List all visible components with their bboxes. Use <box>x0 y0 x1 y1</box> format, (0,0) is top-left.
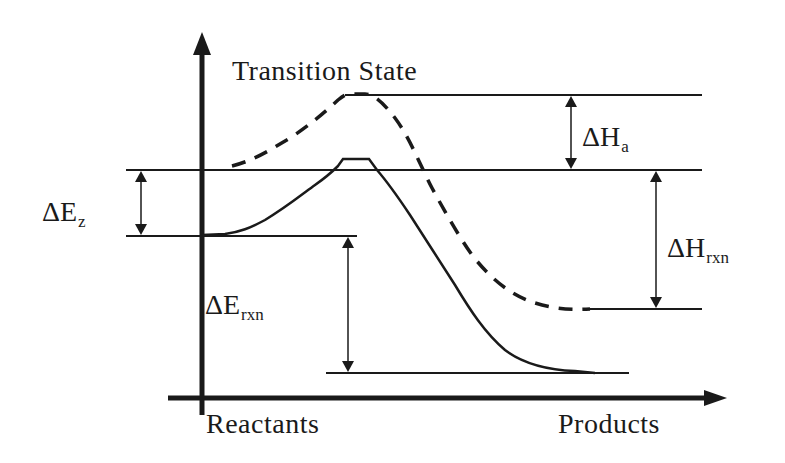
x-axis <box>168 390 727 406</box>
delta-e-z-label: ΔEz <box>42 198 86 230</box>
delta-e-z-arrow <box>135 171 147 235</box>
products-label: Products <box>558 410 660 438</box>
delta-h-a-sub: a <box>621 137 629 156</box>
energy-curve <box>202 159 595 373</box>
enthalpy-curve <box>232 94 590 309</box>
delta-e-z-sub: z <box>78 212 86 231</box>
y-axis <box>193 32 211 415</box>
x-axis-arrow-icon <box>704 390 727 406</box>
delta-h-rxn-label: ΔHrxn <box>667 234 729 266</box>
delta-e-rxn-arrow <box>342 237 354 372</box>
delta-h-a-base: ΔH <box>582 121 620 152</box>
y-axis-arrow-icon <box>193 32 211 55</box>
delta-e-rxn-sub: rxn <box>241 305 264 324</box>
delta-e-rxn-base: ΔE <box>205 289 240 320</box>
delta-h-rxn-arrow <box>650 171 662 308</box>
delta-e-rxn-label: ΔErxn <box>205 291 264 323</box>
transition-state-label: Transition State <box>232 57 417 85</box>
delta-h-rxn-base: ΔH <box>667 232 705 263</box>
delta-h-rxn-sub: rxn <box>706 248 729 267</box>
delta-e-z-base: ΔE <box>42 196 77 227</box>
reactants-label: Reactants <box>206 410 319 438</box>
delta-h-a-arrow <box>565 96 577 169</box>
delta-h-a-label: ΔHa <box>582 123 629 155</box>
